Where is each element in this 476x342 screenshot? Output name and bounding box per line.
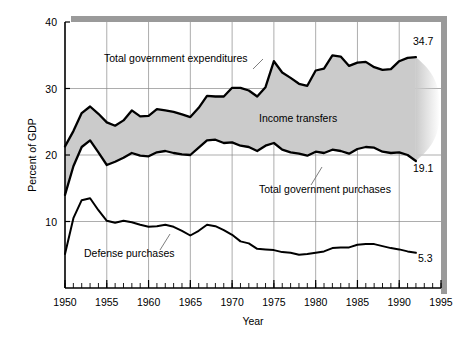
y-tick-20: 20 xyxy=(45,149,57,161)
annotation-defense-purchases: Defense purchases xyxy=(84,247,174,259)
x-axis-title: Year xyxy=(242,315,264,327)
x-tick-1980: 1980 xyxy=(304,296,328,308)
annotation-total-government-expenditures: Total government expenditures xyxy=(104,52,248,64)
y-tick-40: 40 xyxy=(45,16,57,28)
x-tick-1985: 1985 xyxy=(346,296,370,308)
y-tick-10: 10 xyxy=(45,216,57,228)
gdp-area-chart: 10203040 1950195519601965197019751980198… xyxy=(0,0,476,342)
x-tick-1955: 1955 xyxy=(95,296,119,308)
y-tick-30: 30 xyxy=(45,83,57,95)
chart-figure: 10203040 1950195519601965197019751980198… xyxy=(0,0,476,342)
x-tick-1990: 1990 xyxy=(388,296,412,308)
x-tick-1960: 1960 xyxy=(137,296,161,308)
end-value-defense: 5.3 xyxy=(418,252,433,264)
x-tick-1995: 1995 xyxy=(429,296,453,308)
end-value-purchases: 19.1 xyxy=(413,162,434,174)
x-tick-1950: 1950 xyxy=(53,296,77,308)
x-tick-1970: 1970 xyxy=(220,296,244,308)
y-axis-title: Percent of GDP xyxy=(26,118,38,192)
end-value-expenditures: 34.7 xyxy=(413,35,434,47)
x-tick-1965: 1965 xyxy=(179,296,203,308)
annotation-total-government-purchases: Total government purchases xyxy=(259,183,391,195)
annotation-income-transfers: Income transfers xyxy=(259,112,337,124)
x-tick-1975: 1975 xyxy=(262,296,286,308)
